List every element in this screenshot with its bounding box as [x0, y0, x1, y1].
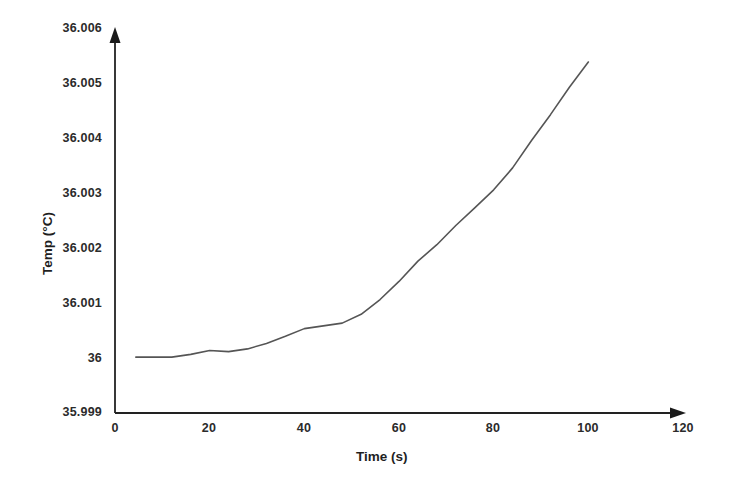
y-tick-label: 36.004 [10, 131, 102, 145]
x-tick-label: 40 [279, 421, 329, 435]
y-tick-label: 36.001 [10, 296, 102, 310]
x-tick-label: 0 [90, 421, 140, 435]
x-tick-label: 100 [563, 421, 613, 435]
x-tick-label: 80 [468, 421, 518, 435]
y-tick-label: 36.003 [10, 186, 102, 200]
temperature-vs-time-chart [0, 0, 729, 490]
y-tick-label: 35.999 [10, 405, 102, 419]
y-axis-title: Temp (°C) [40, 212, 55, 275]
y-tick-label: 36 [10, 351, 102, 365]
x-axis-title: Time (s) [356, 449, 408, 464]
y-tick-label: 36.002 [10, 241, 102, 255]
x-tick-label: 20 [184, 421, 234, 435]
y-tick-label: 36.005 [10, 76, 102, 90]
chart-background [0, 0, 729, 490]
x-tick-label: 60 [374, 421, 424, 435]
x-tick-label: 120 [658, 421, 708, 435]
y-tick-label: 36.006 [10, 21, 102, 35]
